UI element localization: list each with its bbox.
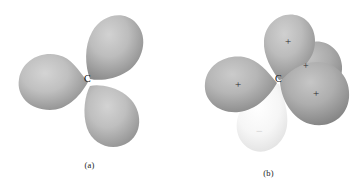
panel-a-lobes — [0, 0, 179, 187]
caption-panel-b: (b) — [179, 168, 358, 178]
panel-b: C + + + + − (b) — [179, 0, 358, 187]
orbital-figure: C (a) — [0, 0, 358, 187]
phase-sign-left-lobe: + — [235, 79, 241, 90]
caption-panel-a: (a) — [0, 160, 179, 170]
lobe-left — [19, 54, 88, 110]
phase-sign-bottom-lobe: − — [256, 125, 263, 137]
phase-sign-top-lobe: + — [285, 36, 291, 47]
phase-sign-back-right-lobe: + — [303, 61, 309, 71]
lobe-upper-right — [86, 15, 143, 79]
panel-b-lobes — [179, 0, 358, 187]
atom-label-carbon-b: C — [275, 74, 282, 84]
lobe-lower-right — [84, 85, 139, 147]
atom-label-carbon-a: C — [84, 74, 91, 84]
phase-sign-front-right-lobe: + — [313, 88, 319, 99]
panel-a: C (a) — [0, 0, 179, 187]
